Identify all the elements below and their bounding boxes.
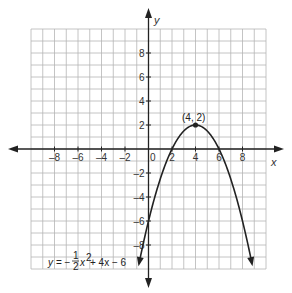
svg-text:–2: –2 bbox=[119, 152, 131, 163]
svg-text:–6: –6 bbox=[133, 216, 145, 227]
origin-label: 0 bbox=[150, 152, 156, 163]
eq-numerator: 1 bbox=[73, 250, 79, 261]
eq-rest: + 4x − 6 bbox=[90, 257, 127, 268]
eq-equals: = − bbox=[56, 257, 71, 268]
eq-denominator: 2 bbox=[73, 261, 79, 272]
svg-text:–4: –4 bbox=[133, 192, 145, 203]
svg-text:6: 6 bbox=[139, 72, 145, 83]
svg-text:–8: –8 bbox=[49, 152, 61, 163]
eq-x: x bbox=[79, 257, 86, 268]
vertex-label: (4, 2) bbox=[182, 112, 205, 123]
svg-text:–2: –2 bbox=[133, 168, 145, 179]
svg-text:8: 8 bbox=[139, 48, 145, 59]
equation-label: y = − 1 2 x 2 + 4x − 6 bbox=[46, 250, 130, 272]
svg-text:4: 4 bbox=[139, 96, 145, 107]
eq-y: y bbox=[47, 257, 54, 268]
svg-text:–6: –6 bbox=[72, 152, 84, 163]
x-axis-label: x bbox=[270, 156, 277, 168]
y-axis-label: y bbox=[153, 14, 161, 26]
svg-text:8: 8 bbox=[240, 152, 246, 163]
vertex-point bbox=[193, 122, 198, 127]
svg-text:2: 2 bbox=[139, 120, 145, 131]
svg-text:–4: –4 bbox=[96, 152, 108, 163]
parabola-graph: –8–6–4–224688642–2–4–6–8 x y 0 (4, 2) y … bbox=[0, 0, 292, 293]
svg-text:4: 4 bbox=[193, 152, 199, 163]
